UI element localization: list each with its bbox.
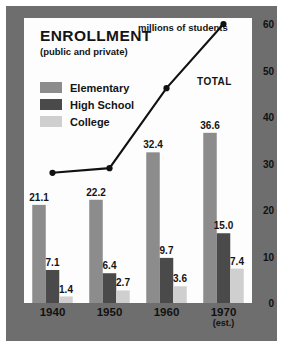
bar-value-label: 7.1 [46, 257, 60, 268]
y-axis-tick: 60 [263, 19, 274, 30]
y-axis-tick: 40 [263, 112, 274, 123]
bar-value-label: 36.6 [200, 120, 219, 131]
bar [173, 286, 187, 303]
bar-value-label: 15.0 [214, 220, 233, 231]
bar [160, 258, 174, 303]
y-axis-tick: 10 [263, 251, 274, 262]
x-axis-year: 1940 [40, 306, 66, 318]
bar-value-label: 21.1 [29, 192, 48, 203]
x-axis-year: 1960 [154, 306, 180, 318]
x-axis-year: 1950 [97, 306, 123, 318]
bar-value-label: 6.4 [103, 260, 117, 271]
x-axis-label: 1950 [97, 306, 123, 318]
y-axis-tick: 50 [263, 65, 274, 76]
bar-value-label: 2.7 [116, 277, 130, 288]
bar [103, 273, 117, 303]
total-line-marker [220, 21, 226, 27]
y-axis-tick: 30 [263, 158, 274, 169]
total-line-marker [106, 165, 112, 171]
y-axis-tick: 20 [263, 205, 274, 216]
bar [203, 133, 217, 303]
bar-value-label: 7.4 [230, 256, 244, 267]
bar-value-label: 32.4 [143, 139, 162, 150]
bar [32, 205, 46, 303]
bar-value-label: 22.2 [86, 187, 105, 198]
y-axis: 0102030405060 [254, 18, 277, 303]
x-axis-note: (est.) [211, 318, 237, 328]
x-axis-label: 1960 [154, 306, 180, 318]
bar-value-label: 3.6 [173, 273, 187, 284]
bar [116, 290, 130, 303]
y-axis-tick: 0 [268, 298, 274, 309]
bar [217, 233, 231, 303]
bar [46, 270, 60, 303]
total-line-marker [163, 85, 169, 91]
enrollment-chart: ENROLLMENT (public and private) millions… [0, 0, 283, 347]
bar-value-label: 1.4 [59, 284, 73, 295]
bar [89, 200, 103, 303]
bar [230, 269, 244, 303]
total-line-marker [49, 170, 55, 176]
bar-value-label: 9.7 [160, 245, 174, 256]
x-axis-year: 1970 [211, 306, 237, 318]
bar [59, 296, 73, 303]
bar [146, 152, 160, 303]
total-line [53, 24, 224, 173]
x-axis-label: 1970(est.) [211, 306, 237, 328]
x-axis-label: 1940 [40, 306, 66, 318]
